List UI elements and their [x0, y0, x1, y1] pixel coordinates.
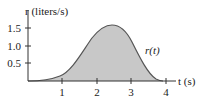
x-tick-label: 1: [59, 86, 65, 98]
y-tick-label: 0.5: [7, 57, 21, 69]
x-tick-label: 4: [163, 86, 169, 98]
y-axis-label: r (liters/s): [25, 5, 68, 18]
x-tick-label: 3: [128, 86, 134, 98]
x-axis-label: t (s): [178, 75, 196, 88]
x-tick-label: 2: [94, 86, 100, 98]
curve-label: r(t): [145, 44, 160, 57]
y-tick-label: 1.5: [7, 22, 21, 34]
y-tick-label: 1.0: [7, 40, 21, 52]
chart: 0.5 1.0 1.5 1 2 3 4 r (liters/s) t (s) r…: [0, 0, 203, 101]
